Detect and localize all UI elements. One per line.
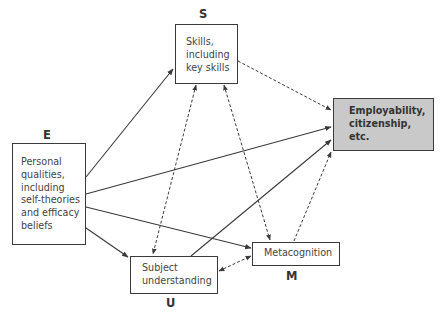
- node-skills: Skills, including key skills: [175, 24, 238, 84]
- node-personal-qualities-text: Personal qualities, including self-theor…: [21, 156, 85, 233]
- node-personal-qualities: Personal qualities, including self-theor…: [12, 143, 86, 245]
- node-skills-text: Skills, including key skills: [186, 36, 237, 74]
- edge-u-to-outcome: [191, 140, 331, 256]
- node-employability: Employability, citizenship, etc.: [333, 98, 434, 151]
- node-subject-understanding-text: Subject understanding: [142, 262, 217, 288]
- edge-e-to-outcome: [86, 127, 331, 194]
- edge-s-to-outcome: [238, 61, 331, 110]
- node-e-letter: E: [43, 128, 51, 142]
- edge-e-to-s: [86, 69, 173, 177]
- node-metacognition: Metacognition: [252, 242, 340, 266]
- node-s-letter: S: [199, 7, 207, 21]
- edge-u-m-bidirectional: [219, 256, 251, 271]
- node-u-letter: U: [166, 296, 175, 310]
- node-employability-text: Employability, citizenship, etc.: [349, 105, 433, 143]
- edge-e-to-u: [86, 228, 128, 257]
- edge-s-m-bidirectional: [224, 85, 270, 240]
- node-metacognition-text: Metacognition: [264, 247, 339, 260]
- node-m-letter: M: [286, 269, 297, 283]
- node-subject-understanding: Subject understanding: [130, 256, 218, 294]
